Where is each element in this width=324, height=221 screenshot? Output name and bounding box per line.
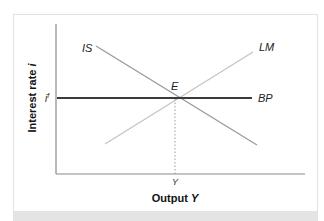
is-curve [96, 46, 257, 145]
bp-label: BP [258, 92, 273, 104]
y-axis-title: Interest rate i [26, 63, 38, 133]
y-tick-label: if [45, 92, 50, 104]
is-lm-bp-diagram: IS LM BP E if Y Output Y Interest rate i [0, 0, 324, 221]
lm-label: LM [259, 41, 275, 53]
x-axis-title: Output Y [152, 192, 200, 204]
x-tick-label: Y [172, 177, 179, 187]
equilibrium-label: E [171, 80, 179, 92]
is-label: IS [82, 42, 93, 54]
svg-text:Interest rate i: Interest rate i [26, 63, 38, 133]
